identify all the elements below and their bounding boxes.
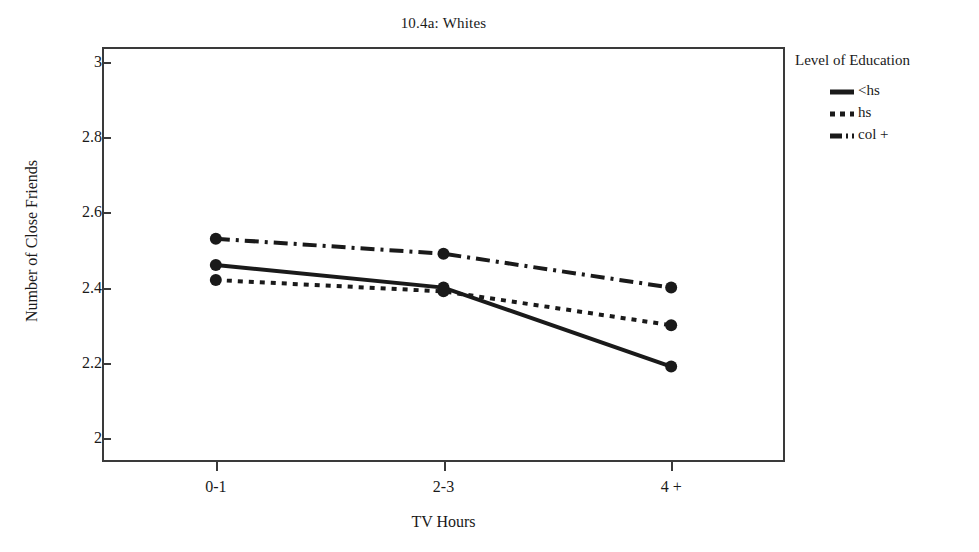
legend-item[interactable]: hs (829, 101, 979, 123)
series-line (216, 239, 671, 288)
legend-line-swatch (829, 106, 855, 118)
data-point-marker (438, 248, 450, 260)
legend-item-label: hs (858, 104, 871, 121)
data-point-marker (665, 319, 677, 331)
legend-entries: <hshscol + (795, 79, 979, 145)
legend-item[interactable]: col + (829, 123, 979, 145)
legend-line-swatch (829, 128, 855, 140)
data-point-marker (210, 233, 222, 245)
legend-item-label: col + (858, 126, 889, 143)
legend-item-label: <hs (858, 82, 880, 99)
legend-line-swatch (829, 84, 855, 96)
chart-figure: 10.4a: Whites Number of Close Friends 22… (0, 0, 979, 552)
data-point-marker (210, 274, 222, 286)
legend-item[interactable]: <hs (829, 79, 979, 101)
legend-title: Level of Education (795, 52, 979, 69)
data-point-marker (665, 282, 677, 294)
data-point-marker (210, 259, 222, 271)
legend: Level of Education <hshscol + (795, 52, 979, 145)
data-point-marker (438, 285, 450, 297)
data-point-marker (665, 361, 677, 373)
